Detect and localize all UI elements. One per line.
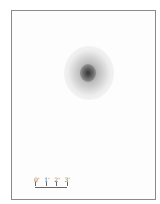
- scale-tick: [35, 182, 36, 186]
- scale-labels: 0' 1' 2' 3': [34, 176, 70, 183]
- scale-line: [35, 185, 67, 188]
- image-frame: [11, 10, 156, 200]
- scale-tick: [67, 182, 68, 186]
- scale-tick: [46, 182, 47, 186]
- scale-bar: 0' 1' 2' 3': [34, 176, 70, 190]
- blob-core: [80, 64, 96, 82]
- scale-tick: [56, 182, 57, 186]
